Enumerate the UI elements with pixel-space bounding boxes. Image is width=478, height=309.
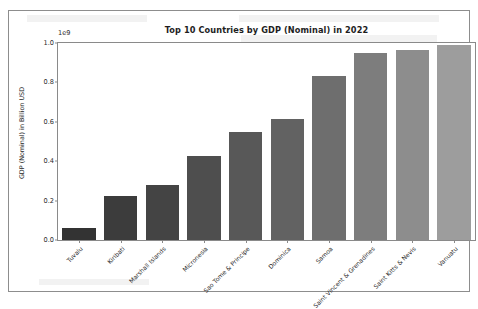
- chart-title: Top 10 Countries by GDP (Nominal) in 202…: [57, 25, 476, 35]
- x-tick-mark: [204, 240, 205, 243]
- y-axis-offset-text: 1e9: [58, 29, 70, 37]
- x-tick-label: Samoa: [314, 245, 334, 265]
- bar: [187, 156, 220, 240]
- bar: [146, 185, 179, 240]
- y-tick-mark: [55, 121, 58, 122]
- bar: [437, 45, 470, 240]
- x-tick-mark: [412, 240, 413, 243]
- x-tick-label: Tuvalu: [65, 245, 84, 264]
- y-tick-mark: [55, 240, 58, 241]
- x-tick-label: Dominica: [267, 245, 292, 270]
- x-tick-mark: [121, 240, 122, 243]
- x-tick-mark: [371, 240, 372, 243]
- x-tick-label: Sao Tome & Principe: [202, 245, 251, 294]
- x-tick-label: Vanuatu: [436, 245, 459, 268]
- bar: [396, 50, 429, 240]
- bar: [104, 196, 137, 240]
- x-tick-mark: [79, 240, 80, 243]
- y-tick-mark: [55, 82, 58, 83]
- y-tick-mark: [55, 43, 58, 44]
- bar: [354, 53, 387, 240]
- y-tick-mark: [55, 200, 58, 201]
- x-tick-label: Micronesia: [181, 245, 209, 273]
- bar: [62, 228, 95, 240]
- bar: [312, 76, 345, 240]
- x-tick-label: Marshall Islands: [128, 245, 168, 285]
- y-tick-mark: [55, 161, 58, 162]
- y-axis-label: GDP (Nominal) in Billion USD: [18, 58, 26, 208]
- x-tick-mark: [329, 240, 330, 243]
- x-tick-label: Saint Kitts & Nevis: [372, 245, 417, 290]
- x-tick-mark: [162, 240, 163, 243]
- x-tick-mark: [246, 240, 247, 243]
- x-tick-mark: [454, 240, 455, 243]
- x-tick-mark: [287, 240, 288, 243]
- plot-area: 0.00.20.40.60.81.0 TuvaluKiribatiMarshal…: [57, 42, 476, 241]
- bar: [271, 119, 304, 240]
- bar: [229, 132, 262, 240]
- figure-frame: Top 10 Countries by GDP (Nominal) in 202…: [8, 10, 470, 292]
- x-tick-label: Kiribati: [105, 245, 125, 265]
